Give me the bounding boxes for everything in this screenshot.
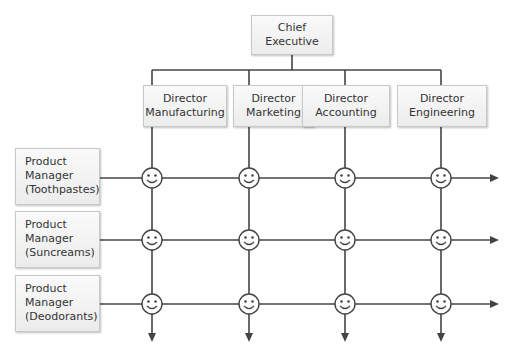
director-department: Marketing: [246, 106, 301, 120]
director-title: Director: [251, 92, 295, 106]
director-accounting-box: Director Accounting: [302, 85, 390, 127]
pm-title: Product: [25, 282, 99, 296]
smiley-face-icon: [335, 294, 355, 314]
smiley-face-icon: [239, 168, 259, 188]
arrow-down-icon: [245, 333, 253, 342]
pm-title: Manager: [25, 296, 99, 310]
product-manager-suncreams-box: Product Manager (Suncreams): [15, 211, 100, 268]
arrow-down-icon: [341, 333, 349, 342]
smiley-face-icon: [239, 230, 259, 250]
pm-title: Product: [25, 155, 99, 169]
director-engineering-box: Director Engineering: [397, 85, 487, 127]
product-manager-toothpastes-box: Product Manager (Toothpastes): [15, 148, 100, 205]
director-department: Manufacturing: [145, 106, 225, 120]
pm-product: (Deodorants): [25, 310, 99, 324]
product-manager-deodorants-box: Product Manager (Deodorants): [15, 275, 100, 332]
director-title: Director: [324, 92, 368, 106]
pm-product: (Toothpastes): [25, 183, 99, 197]
director-title: Director: [163, 92, 207, 106]
arrow-right-icon: [490, 300, 499, 308]
pm-title: Manager: [25, 169, 99, 183]
pm-title: Manager: [25, 232, 99, 246]
smiley-face-icon: [142, 230, 162, 250]
chief-line2: Executive: [265, 35, 319, 49]
director-department: Accounting: [315, 106, 376, 120]
arrow-right-icon: [490, 236, 499, 244]
pm-title: Product: [25, 218, 99, 232]
chief-line1: Chief: [278, 21, 306, 35]
smiley-face-icon: [335, 230, 355, 250]
smiley-face-icon: [142, 168, 162, 188]
arrow-right-icon: [490, 174, 499, 182]
smiley-face-icon: [431, 168, 451, 188]
arrow-down-icon: [148, 333, 156, 342]
director-title: Director: [420, 92, 464, 106]
arrow-down-icon: [437, 333, 445, 342]
smiley-face-icon: [239, 294, 259, 314]
smiley-face-icon: [431, 294, 451, 314]
smiley-face-icon: [431, 230, 451, 250]
smiley-face-icon: [142, 294, 162, 314]
pm-product: (Suncreams): [25, 246, 99, 260]
director-manufacturing-box: Director Manufacturing: [143, 85, 227, 127]
smiley-face-icon: [335, 168, 355, 188]
chief-executive-box: Chief Executive: [251, 15, 333, 55]
director-department: Engineering: [409, 106, 475, 120]
